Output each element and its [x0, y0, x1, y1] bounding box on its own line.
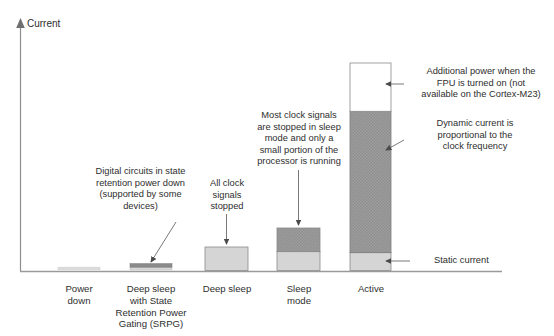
annotation-deep-sleep: All clock signals stopped	[198, 178, 256, 213]
bar-deep-sleep	[205, 247, 248, 271]
y-axis-title: Current	[27, 18, 60, 29]
annotation-static-current: Static current	[434, 255, 544, 267]
annotation-sleep-mode: Most clock signals are stopped in sleep …	[236, 110, 362, 168]
annotation-dynamic-current: Dynamic current is proportional to the c…	[414, 118, 536, 153]
category-label-active: Active	[343, 283, 399, 295]
annotation-fpu: Additional power when the FPU is turned …	[408, 66, 554, 101]
bar-power-down	[58, 267, 100, 270]
bar-sleep-mode	[277, 228, 320, 271]
category-label-deep-sleep: Deep sleep	[188, 283, 266, 295]
bar-srpg	[130, 264, 172, 270]
diagram-canvas: Current Power down Deep sleep with State…	[0, 0, 554, 336]
category-label-sleep-mode: Sleep mode	[272, 283, 326, 307]
annotation-srpg: Digital circuits in state retention powe…	[68, 166, 213, 212]
leader-srpg	[151, 222, 176, 262]
category-label-srpg: Deep sleep with State Retention Power Ga…	[103, 283, 199, 330]
y-axis	[16, 18, 25, 271]
y-axis-arrowhead	[16, 18, 25, 28]
